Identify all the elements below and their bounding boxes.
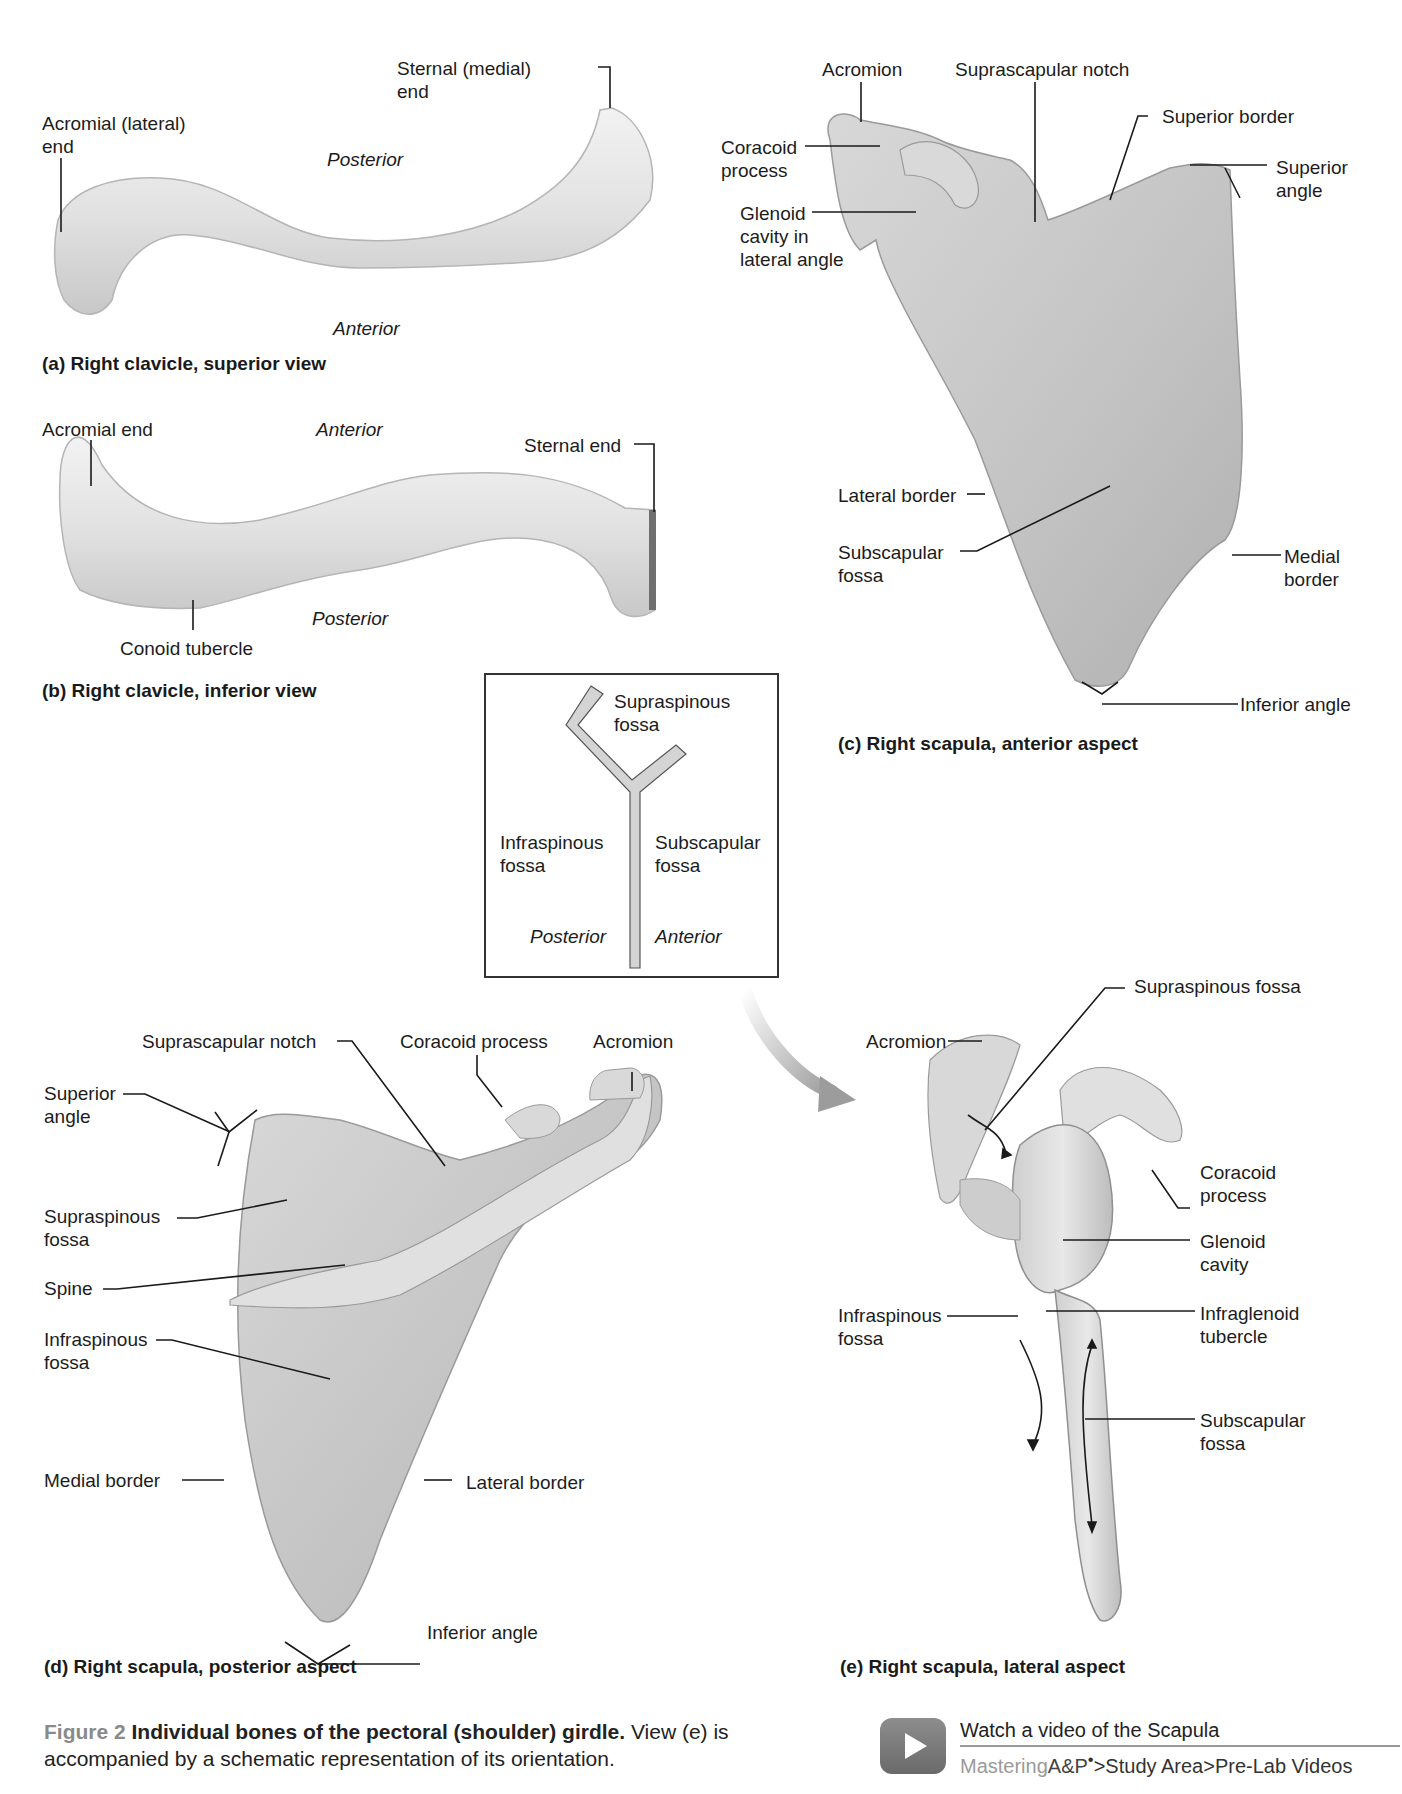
label-spine: Spine	[44, 1277, 93, 1300]
label-medial-border: Medial border	[44, 1469, 160, 1492]
caption-panel-d: (d) Right scapula, posterior aspect	[44, 1656, 357, 1678]
caption-panel-c: (c) Right scapula, anterior aspect	[838, 733, 1138, 755]
label-subscapular-fossa: Subscapular fossa	[1200, 1409, 1306, 1455]
video-path[interactable]: MasteringA&P•>Study Area>Pre-Lab Videos	[960, 1750, 1352, 1778]
caption-panel-a: (a) Right clavicle, superior view	[42, 353, 326, 375]
play-icon[interactable]	[880, 1718, 946, 1774]
label-suprascapular-notch: Suprascapular notch	[955, 58, 1129, 81]
label-inferior-angle: Inferior angle	[427, 1621, 538, 1644]
video-divider	[960, 1745, 1400, 1747]
label-anterior: Anterior	[333, 317, 400, 340]
label-coracoid-process: Coracoid process	[400, 1030, 548, 1053]
brand-mastering: Mastering	[960, 1755, 1048, 1777]
label-glenoid-cavity: Glenoid cavity	[1200, 1230, 1266, 1276]
orientation-arrow	[745, 990, 856, 1112]
label-coracoid-process: Coracoid process	[721, 136, 797, 182]
clavicle-inferior-illustration	[60, 437, 656, 616]
scapula-lateral-illustration	[928, 1035, 1182, 1621]
brand-ap: A&P	[1048, 1755, 1088, 1777]
caption-panel-e: (e) Right scapula, lateral aspect	[840, 1656, 1125, 1678]
label-medial-border: Medial border	[1284, 545, 1340, 591]
label-inferior-angle: Inferior angle	[1240, 693, 1351, 716]
label-suprascapular-notch: Suprascapular notch	[142, 1030, 316, 1053]
schematic-label-posterior: Posterior	[530, 925, 606, 948]
label-acromion: Acromion	[866, 1030, 946, 1053]
label-coracoid-process: Coracoid process	[1200, 1161, 1276, 1207]
video-title[interactable]: Watch a video of the Scapula	[960, 1719, 1219, 1742]
label-glenoid-cavity-lateral-angle: Glenoid cavity in lateral angle	[740, 202, 844, 271]
label-sternal-end: Sternal end	[524, 434, 621, 457]
label-acromion: Acromion	[593, 1030, 673, 1053]
label-lateral-border: Lateral border	[466, 1471, 584, 1494]
label-anterior: Anterior	[316, 418, 383, 441]
schematic-label-anterior: Anterior	[655, 925, 722, 948]
label-acromion: Acromion	[822, 58, 902, 81]
figure-caption: Figure 2 Individual bones of the pectora…	[44, 1718, 844, 1772]
label-superior-angle: Superior angle	[44, 1082, 116, 1128]
label-infraglenoid-tubercle: Infraglenoid tubercle	[1200, 1302, 1299, 1348]
video-navigation-path: >Study Area>Pre-Lab Videos	[1094, 1755, 1353, 1777]
label-lateral-border: Lateral border	[838, 484, 956, 507]
label-posterior: Posterior	[327, 148, 403, 171]
label-conoid-tubercle: Conoid tubercle	[120, 637, 253, 660]
label-acromial-end: Acromial end	[42, 418, 153, 441]
label-infraspinous-fossa: Infraspinous fossa	[838, 1304, 942, 1350]
schematic-label-infraspinous: Infraspinous fossa	[500, 831, 604, 877]
figure-title: Individual bones of the pectoral (should…	[132, 1720, 626, 1743]
schematic-label-supraspinous: Supraspinous fossa	[614, 690, 730, 736]
label-infraspinous-fossa: Infraspinous fossa	[44, 1328, 148, 1374]
video-link[interactable]: Watch a video of the Scapula MasteringA&…	[880, 1715, 1400, 1785]
label-posterior: Posterior	[312, 607, 388, 630]
label-acromial-lateral-end: Acromial (lateral) end	[42, 112, 186, 158]
label-subscapular-fossa: Subscapular fossa	[838, 541, 944, 587]
label-supraspinous-fossa: Supraspinous fossa	[1134, 975, 1301, 998]
label-superior-border: Superior border	[1162, 105, 1294, 128]
label-superior-angle: Superior angle	[1276, 156, 1348, 202]
figure-number: Figure 2	[44, 1720, 126, 1743]
label-supraspinous-fossa: Supraspinous fossa	[44, 1205, 160, 1251]
caption-panel-b: (b) Right clavicle, inferior view	[42, 680, 317, 702]
label-sternal-medial-end: Sternal (medial) end	[397, 57, 531, 103]
schematic-label-subscapular: Subscapular fossa	[655, 831, 761, 877]
scapula-posterior-illustration	[230, 1068, 662, 1622]
